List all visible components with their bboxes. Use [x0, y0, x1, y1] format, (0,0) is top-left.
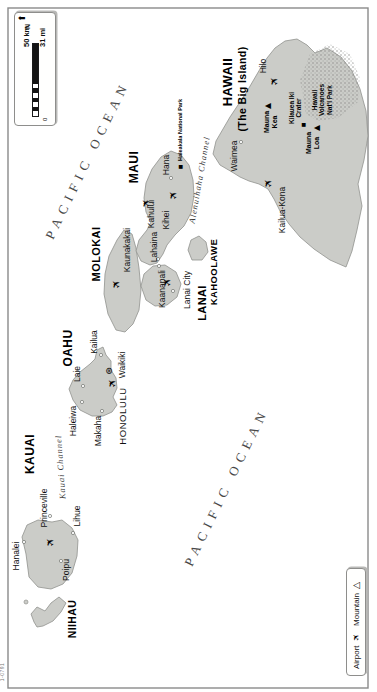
scale-checker-segment [33, 80, 38, 116]
haleiwa-dot [80, 400, 83, 403]
hanalei-dot [22, 540, 25, 543]
label-kauai-name: KAUAI [24, 434, 37, 474]
label-mauna-kea: Mauna Kea [263, 111, 279, 133]
label-molokai-name: MOLOKAI [90, 227, 102, 282]
label-lanai-city: Lanai City [183, 271, 193, 309]
rotated-map-stage: PACIFIC OCEANPACIFIC OCEANKauai ChannelA… [0, 0, 377, 692]
label-kailua-kona: Kailua-Kona [278, 187, 288, 233]
label-hana: Hana [162, 155, 172, 175]
hana-dot [169, 176, 172, 179]
waimea-dot [239, 140, 242, 143]
label-mauna-loa: Mauna Loa [305, 132, 321, 154]
scale-mi-label: 31 mi [38, 28, 47, 47]
label-maui-name: MAUI [128, 151, 141, 183]
park-icon-kilauea-marker: ■ [301, 123, 306, 128]
legend-mountain-label: Mountain [352, 593, 361, 626]
park-icon-haleakala-marker: ■ [178, 165, 183, 170]
label-big-island-subtitle: (The Big Island) [237, 46, 249, 131]
island-niihau [31, 597, 66, 627]
label-kihei: Kihei [162, 211, 172, 230]
map-page: { "map": { "code": "1-0791", "island_fil… [0, 0, 377, 692]
makaha-dot [100, 409, 103, 412]
capital-icon-honolulu-capital-star: ⊛ [105, 367, 114, 375]
kaanapali-dot [157, 264, 160, 267]
scale-bar-panel: 0 50 km 31 mi N ⬆ [14, 12, 56, 126]
legend-airport-label: Airport [352, 645, 361, 669]
lihue-dot [71, 531, 74, 534]
north-label: N [24, 24, 31, 29]
kailua-dot [99, 353, 102, 356]
label-haleiwa: Haleiwa [69, 406, 79, 436]
label-hilo: Hilo [259, 59, 269, 74]
label-hanalei: Hanalei [12, 542, 22, 571]
label-niihau-name: NIIHAU [67, 600, 79, 639]
label-kaunakakai: Kaunakakai [123, 228, 133, 272]
label-lihue: Lihue [73, 506, 83, 527]
label-lahaina: Lahaina [150, 232, 160, 262]
label-volcanoes-park: Hawaii Volcanoes Nat'l Park [311, 84, 333, 116]
scale-solid-segment [33, 44, 38, 80]
mountain-icon-mauna-kea-peak: ▲ [264, 103, 272, 109]
label-princeville: Princeville [40, 489, 50, 528]
scale-bar [32, 43, 39, 117]
island-kahoolawe [188, 236, 208, 260]
label-poipu: Poipu [62, 559, 72, 581]
lanai-city-dot [171, 289, 174, 292]
label-laie: Laie [73, 366, 83, 382]
label-kahoolawe-name: KAHOOLAWE [209, 239, 220, 305]
airport-icon: ✈ [350, 631, 362, 643]
mountain-icon-mauna-loa-peak: ▲ [313, 125, 321, 131]
label-makaha: Makaha [94, 416, 104, 446]
lehua-islet [24, 600, 28, 604]
label-haleakala-park: Haleakala National Park [177, 99, 183, 161]
label-waikiki: Waikiki [118, 352, 128, 379]
label-waimea: Waimea [230, 141, 240, 172]
label-hawaii-name: HAWAII [221, 58, 236, 107]
label-kailua: Kailua [90, 330, 100, 354]
label-lanai-name: LANAI [196, 285, 208, 321]
laie-dot [81, 384, 84, 387]
label-oahu-name: OAHU [62, 330, 75, 367]
label-honolulu: HONOLULU [118, 387, 129, 445]
mountain-icon: △ [351, 582, 361, 589]
label-kilauea-iki-crater: Kilauea Iki Crater [288, 92, 303, 124]
north-arrow-icon: ⬆ [17, 14, 27, 22]
legend-panel: Airport ✈ Mountain △ [346, 568, 366, 676]
scale-zero-label: 0 [42, 118, 48, 121]
label-map-code: 1-0791 [0, 663, 6, 682]
